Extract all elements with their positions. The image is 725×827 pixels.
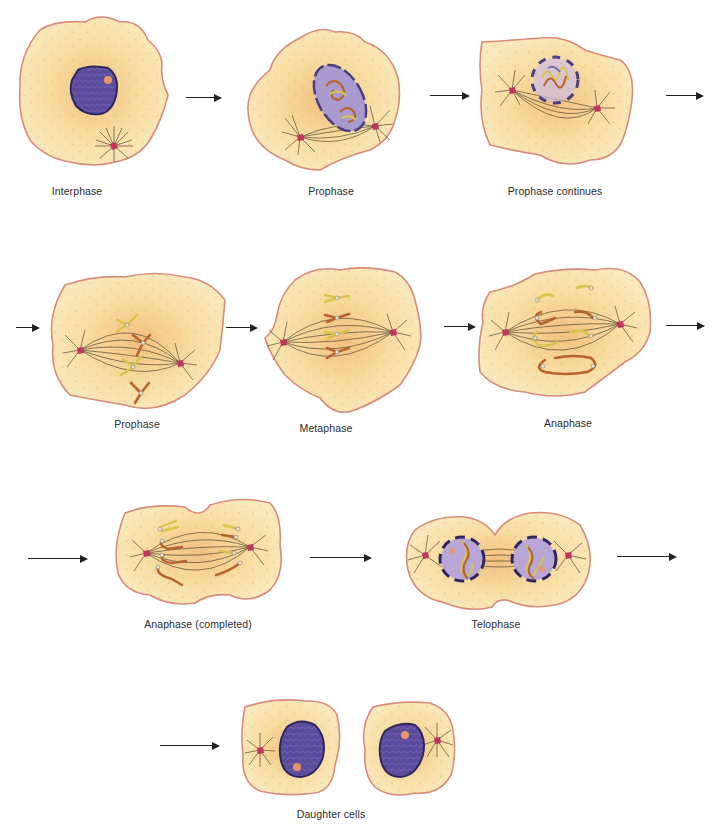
stage-anaphase-completed: Anaphase (completed) [110,495,290,635]
arrow-icon [310,553,372,563]
stage-label: Telophase [472,618,521,630]
arrow-icon [160,741,220,751]
nucleus-icon [280,721,324,777]
arrow-icon [16,323,40,333]
stage-label: Prophase continues [508,185,603,197]
stage-label: Prophase [308,185,354,197]
anaphase-cell-illustration [475,262,675,437]
stage-label: Anaphase (completed) [144,618,252,630]
stage-label: Anaphase [544,417,592,429]
stage-label: Interphase [52,185,103,197]
arrow-icon [444,322,476,332]
prophase-continues-cell-illustration [470,20,700,200]
stage-prophase-2: Prophase [45,265,235,435]
stage-anaphase: Anaphase [475,262,675,437]
prophase-cell-illustration [230,0,430,200]
stage-prophase: Prophase [230,0,430,200]
stage-label: Prophase [114,418,160,430]
stage-prophase-continues: Prophase continues [470,20,700,200]
arrow-icon [226,323,258,333]
stage-daughter-cells: Daughter cells [235,695,475,827]
prophase-2-cell-illustration [45,265,235,435]
arrow-icon [28,554,88,564]
anaphase-completed-cell-illustration [110,495,290,635]
stage-label: Daughter cells [297,808,366,820]
arrow-icon [617,552,677,562]
stage-telophase: Telophase [400,505,600,635]
arrow-icon [666,91,706,101]
nucleus-icon [71,66,117,114]
arrow-icon [666,321,706,331]
stage-metaphase: Metaphase [255,260,455,435]
stage-label: Metaphase [300,422,353,434]
arrow-icon [186,93,222,103]
metaphase-cell-illustration [255,260,455,435]
telophase-cell-illustration [400,505,600,635]
arrow-icon [430,91,470,101]
